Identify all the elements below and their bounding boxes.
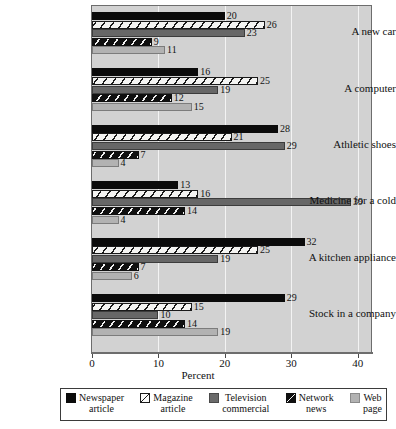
legend-swatch-icon — [140, 393, 150, 403]
bar — [92, 125, 278, 133]
bar — [92, 190, 198, 198]
bar-value-label: 7 — [141, 150, 146, 159]
bar — [92, 311, 158, 319]
bar-value-label: 19 — [220, 327, 230, 336]
bar-value-label: 26 — [267, 20, 277, 29]
bar — [92, 246, 258, 254]
bar-value-label: 15 — [194, 302, 204, 311]
bar — [92, 68, 198, 76]
legend-item[interactable]: Webpage — [350, 392, 382, 414]
bar-value-label: 13 — [180, 180, 190, 189]
bar-value-label: 6 — [134, 271, 139, 280]
bar-value-label: 32 — [307, 237, 317, 246]
bar-value-label: 20 — [227, 11, 237, 20]
legend-swatch-icon — [66, 393, 76, 403]
bar — [92, 133, 232, 141]
plot-area: 2026239111625191215282129741316391443225… — [91, 5, 372, 353]
bar — [92, 159, 119, 167]
bar — [92, 21, 265, 29]
gridline-40 — [358, 6, 359, 352]
x-axis-title: Percent — [0, 369, 396, 381]
x-tick-label: 0 — [89, 357, 95, 369]
bar-value-label: 25 — [260, 76, 270, 85]
bar-value-label: 4 — [121, 215, 126, 224]
bar — [92, 303, 192, 311]
x-tick-label: 40 — [352, 357, 363, 369]
legend-label: Newspaperarticle — [79, 392, 124, 414]
bar-value-label: 16 — [200, 67, 210, 76]
category-label: A computer — [308, 83, 396, 94]
bar-value-label: 19 — [220, 85, 230, 94]
bar-value-label: 25 — [260, 245, 270, 254]
legend-label: Networknews — [299, 392, 334, 414]
bar-value-label: 28 — [280, 124, 290, 133]
bar-value-label: 19 — [220, 254, 230, 263]
legend: NewspaperarticleMagazinearticleTelevisio… — [60, 388, 387, 421]
bar-value-label: 12 — [174, 93, 184, 102]
bar — [92, 142, 285, 150]
bar-value-label: 9 — [154, 37, 159, 46]
category-label: Medicine for a cold — [308, 195, 396, 206]
bar-value-label: 29 — [287, 293, 297, 302]
bar-value-label: 4 — [121, 158, 126, 167]
category-label: Stock in a company — [308, 308, 396, 319]
bar — [92, 181, 178, 189]
bar — [92, 255, 218, 263]
legend-label: Webpage — [363, 392, 382, 414]
bar — [92, 86, 218, 94]
legend-swatch-icon — [286, 393, 296, 403]
legend-item[interactable]: Newspaperarticle — [66, 392, 124, 414]
bar — [92, 320, 185, 328]
bar-value-label: 14 — [187, 206, 197, 215]
bar-value-label: 21 — [234, 132, 244, 141]
bar — [92, 46, 165, 54]
bar — [92, 151, 139, 159]
legend-swatch-icon — [209, 393, 219, 403]
bar-value-label: 15 — [194, 102, 204, 111]
legend-label: Televisioncommercial — [222, 392, 269, 414]
legend-swatch-icon — [350, 393, 360, 403]
legend-label: Magazinearticle — [153, 392, 192, 414]
category-label: A new car — [308, 26, 396, 37]
bar — [92, 207, 185, 215]
bar-value-label: 14 — [187, 319, 197, 328]
bar — [92, 103, 192, 111]
bar-value-label: 29 — [287, 141, 297, 150]
category-label: Athletic shoes — [308, 139, 396, 150]
bar — [92, 94, 172, 102]
bar — [92, 263, 139, 271]
legend-item[interactable]: Televisioncommercial — [209, 392, 269, 414]
bar — [92, 328, 218, 336]
x-tick-label: 10 — [153, 357, 164, 369]
bar-value-label: 16 — [200, 189, 210, 198]
bar-value-label: 10 — [160, 310, 170, 319]
bar-value-label: 23 — [247, 28, 257, 37]
legend-item[interactable]: Magazinearticle — [140, 392, 192, 414]
x-axis-line — [91, 352, 373, 354]
bar-value-label: 11 — [167, 45, 177, 54]
bar-chart: 2026239111625191215282129741316391443225… — [0, 0, 396, 429]
bar-value-label: 7 — [141, 262, 146, 271]
bar — [92, 216, 119, 224]
category-label: A kitchen appliance — [308, 252, 396, 263]
bar — [92, 77, 258, 85]
bar — [92, 294, 285, 302]
bar — [92, 29, 245, 37]
legend-item[interactable]: Networknews — [286, 392, 334, 414]
bar — [92, 38, 152, 46]
x-tick-label: 30 — [286, 357, 297, 369]
bar — [92, 12, 225, 20]
bar — [92, 238, 305, 246]
x-tick-label: 20 — [219, 357, 230, 369]
bar — [92, 272, 132, 280]
